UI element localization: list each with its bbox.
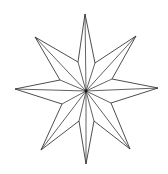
- star-figure: [0, 0, 168, 174]
- eight-pointed-star-icon: [0, 0, 168, 174]
- star-center-point: [85, 90, 88, 93]
